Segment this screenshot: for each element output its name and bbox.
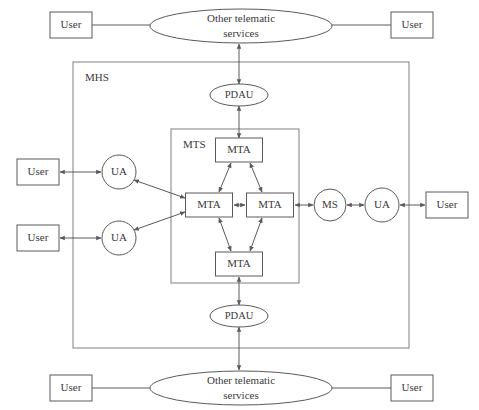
node-user-r1[interactable]: User xyxy=(426,192,468,218)
node-label-ua-r: UA xyxy=(374,198,390,210)
node-pdau-top[interactable]: PDAU xyxy=(210,84,268,106)
node-user-tr[interactable]: User xyxy=(391,12,433,38)
node-user-tl[interactable]: User xyxy=(50,12,92,38)
node-mta-bot[interactable]: MTA xyxy=(216,252,263,276)
node-mta-left[interactable]: MTA xyxy=(186,193,233,217)
node-label-mta-bot: MTA xyxy=(227,257,251,269)
node-user-l1[interactable]: User xyxy=(17,159,59,185)
node-label-ots-top-line1: Other telematic xyxy=(207,12,275,24)
node-label-user-l2: User xyxy=(28,231,49,243)
node-label-ots-bot-line2: services xyxy=(223,389,258,401)
node-label-ots-top-line2: services xyxy=(223,27,258,39)
node-label-ua-l1: UA xyxy=(111,165,127,177)
node-ots-top[interactable]: Other telematicservices xyxy=(150,9,332,43)
node-mta-top[interactable]: MTA xyxy=(216,138,263,162)
node-label-user-bl: User xyxy=(61,381,82,393)
node-user-br[interactable]: User xyxy=(391,375,433,401)
node-mta-right[interactable]: MTA xyxy=(247,193,294,217)
node-ots-bot[interactable]: Other telematicservices xyxy=(150,371,332,405)
node-label-ua-l2: UA xyxy=(111,231,127,243)
link-ua-l1-to-mta-left xyxy=(134,180,185,198)
link-mta-left-to-mta-bot xyxy=(219,218,231,251)
mhs-architecture-diagram: MHSMTS UserUserUserUserUserUserUserOther… xyxy=(0,0,479,410)
link-ua-l2-to-mta-left xyxy=(134,212,185,230)
link-mta-bot-to-mta-right xyxy=(250,218,262,251)
node-label-pdau-top: PDAU xyxy=(225,89,254,100)
link-mta-top-to-mta-right xyxy=(250,163,262,192)
link-mta-left-to-mta-top xyxy=(219,163,231,192)
node-user-bl[interactable]: User xyxy=(50,375,92,401)
node-ua-l1[interactable]: UA xyxy=(102,155,136,189)
node-label-mta-left: MTA xyxy=(197,198,221,210)
node-label-mta-right: MTA xyxy=(258,198,282,210)
node-label-user-br: User xyxy=(402,381,423,393)
node-label-user-tr: User xyxy=(402,18,423,30)
node-label-user-l1: User xyxy=(28,165,49,177)
diagram-canvas: MHSMTS UserUserUserUserUserUserUserOther… xyxy=(0,0,479,410)
container-label-mts: MTS xyxy=(183,138,206,150)
node-pdau-bot[interactable]: PDAU xyxy=(210,305,268,327)
node-label-pdau-bot: PDAU xyxy=(225,310,254,321)
node-label-user-r1: User xyxy=(437,198,458,210)
node-label-ots-bot-line1: Other telematic xyxy=(207,374,275,386)
node-label-ms: MS xyxy=(322,198,338,210)
node-layer: UserUserUserUserUserUserUserOther telema… xyxy=(17,9,468,405)
node-ua-l2[interactable]: UA xyxy=(102,221,136,255)
node-user-l2[interactable]: User xyxy=(17,225,59,251)
node-ms[interactable]: MS xyxy=(314,189,346,221)
node-ua-r[interactable]: UA xyxy=(365,188,399,222)
node-label-mta-top: MTA xyxy=(227,143,251,155)
container-label-mhs: MHS xyxy=(85,71,109,83)
node-label-user-tl: User xyxy=(61,18,82,30)
